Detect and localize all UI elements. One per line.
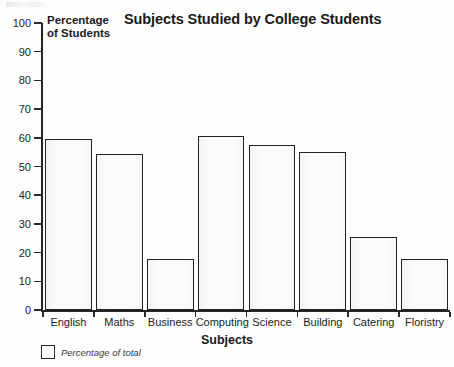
y-tick-mark <box>34 281 42 283</box>
y-tick-mark <box>34 22 42 24</box>
bar-building <box>299 152 346 310</box>
y-tick-label: 40 <box>1 190 31 201</box>
legend-item-label: Percentage of total <box>61 347 141 358</box>
bar-floristry <box>401 259 448 310</box>
bar-catering <box>350 237 397 310</box>
bar-computing <box>198 136 245 310</box>
x-label-science: Science <box>247 316 298 328</box>
x-label-english: English <box>43 316 94 328</box>
y-tick-label: 80 <box>1 75 31 86</box>
bar-english <box>45 139 92 310</box>
y-tick-label: 50 <box>1 162 31 173</box>
bar-maths <box>96 154 143 310</box>
y-tick-label: 100 <box>1 18 31 29</box>
y-tick-mark <box>34 80 42 82</box>
y-tick-label: 30 <box>1 219 31 230</box>
x-label-catering: Catering <box>348 316 399 328</box>
y-tick-label: 0 <box>1 305 31 316</box>
plot-area <box>43 23 450 310</box>
chart-page: Subjects Studied by College Students Per… <box>0 0 454 367</box>
bar-science <box>249 145 296 310</box>
y-tick-mark <box>34 51 42 53</box>
y-tick-label: 10 <box>1 276 31 287</box>
legend: Percentage of total <box>41 345 141 359</box>
legend-swatch-icon <box>41 345 55 359</box>
y-tick-label: 20 <box>1 248 31 259</box>
x-label-business: Business <box>145 316 196 328</box>
scan-artifact <box>6 2 50 7</box>
y-tick-mark <box>34 194 42 196</box>
y-tick-mark <box>34 252 42 254</box>
y-tick-mark <box>34 108 42 110</box>
bar-business <box>147 259 194 310</box>
y-tick-label: 90 <box>1 47 31 58</box>
y-tick-mark <box>34 309 42 311</box>
y-tick-mark <box>34 223 42 225</box>
y-tick-mark <box>34 137 42 139</box>
y-tick-mark <box>34 166 42 168</box>
y-tick-label: 70 <box>1 104 31 115</box>
y-tick-label: 60 <box>1 133 31 144</box>
x-label-computing: Computing <box>196 316 247 328</box>
x-label-maths: Maths <box>94 316 145 328</box>
x-label-floristry: Floristry <box>399 316 450 328</box>
x-label-building: Building <box>297 316 348 328</box>
